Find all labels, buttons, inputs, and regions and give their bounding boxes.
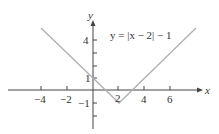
y-tick-label: −1: [78, 97, 90, 109]
x-tick-label: −2: [60, 93, 72, 105]
x-tick-label: 4: [141, 93, 147, 105]
y-tick-label: 4: [83, 34, 89, 46]
y-axis-label: y: [87, 9, 93, 21]
y-tick-label: 1: [85, 72, 91, 84]
x-tick-label: 6: [167, 93, 173, 105]
x-axis-arrow-icon: [197, 88, 203, 93]
chart: −4 −2 2 4 6 4 1 −1 x y y = |x − 2| − 1: [0, 0, 219, 134]
x-tick-label: −4: [34, 93, 46, 105]
x-tick-label: 2: [115, 92, 121, 104]
equation-label: y = |x − 2| − 1: [110, 29, 172, 41]
x-axis-label: x: [204, 84, 210, 96]
